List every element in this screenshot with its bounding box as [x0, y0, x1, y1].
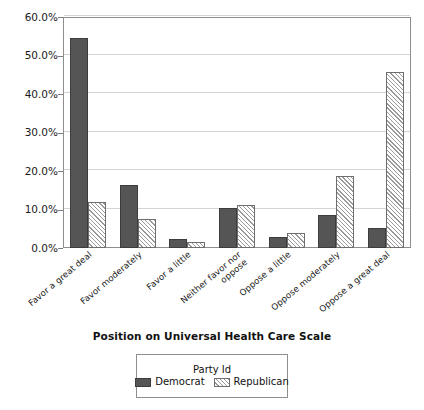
bar-chart: 0.0%10.0%20.0%30.0%40.0%50.0%60.0% Favor… [0, 0, 424, 410]
bar-republican-oppose-a-little [287, 233, 305, 248]
bar-democrat-favor-moderately [120, 185, 138, 248]
x-axis-title: Position on Universal Health Care Scale [0, 330, 424, 342]
bar-republican-favor-a-great-deal [88, 202, 106, 248]
bar-group [162, 17, 212, 248]
bar-democrat-oppose-moderately [318, 215, 336, 248]
legend-entry-republican[interactable]: Republican [214, 377, 289, 387]
bar-group [312, 17, 362, 248]
bar-republican-favor-a-little [187, 242, 205, 248]
legend-entries: DemocratRepublican [135, 377, 289, 387]
legend-swatch-democrat [135, 378, 151, 387]
legend-swatch-republican [214, 378, 230, 387]
gridline [64, 15, 410, 16]
bar-democrat-favor-a-great-deal [70, 38, 88, 248]
bar-group [361, 17, 411, 248]
bar-group [262, 17, 312, 248]
bar-democrat-oppose-a-little [269, 237, 287, 248]
bar-democrat-oppose-a-great-deal [368, 228, 386, 248]
bar-democrat-neither-favor-nor-oppose [219, 208, 237, 248]
legend-label-democrat: Democrat [155, 377, 204, 387]
legend-label-republican: Republican [234, 377, 289, 387]
bar-republican-favor-moderately [138, 219, 156, 248]
bars-layer [63, 17, 411, 248]
y-axis: 0.0%10.0%20.0%30.0%40.0%50.0%60.0% [0, 17, 63, 248]
legend: Party Id DemocratRepublican [136, 354, 288, 398]
bar-group [212, 17, 262, 248]
legend-entry-democrat[interactable]: Democrat [135, 377, 204, 387]
legend-title: Party Id [193, 365, 231, 375]
bar-democrat-favor-a-little [169, 239, 187, 248]
bar-group [63, 17, 113, 248]
bar-republican-oppose-a-great-deal [386, 72, 404, 248]
x-axis-category-labels: Favor a great dealFavor moderatelyFavor … [63, 250, 411, 318]
y-axis-tick-mark [58, 248, 63, 249]
bar-group [113, 17, 163, 248]
bar-republican-neither-favor-nor-oppose [237, 205, 255, 248]
bar-republican-oppose-moderately [336, 176, 354, 248]
